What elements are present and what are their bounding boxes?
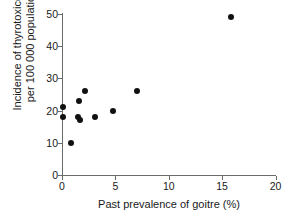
data-point <box>134 88 140 94</box>
y-axis-label: Incidence of thyrotoxicosis per 100 000 … <box>11 0 37 126</box>
x-axis-label: Past prevalence of goitre (%) <box>62 198 276 210</box>
y-tick-mark <box>58 46 62 47</box>
y-tick-label: 40 <box>46 41 58 52</box>
y-tick-label: 0 <box>52 170 58 181</box>
data-point <box>228 14 234 20</box>
data-point <box>68 140 74 146</box>
y-tick-label: 30 <box>46 73 58 84</box>
y-tick-mark <box>58 111 62 112</box>
x-tick-label: 15 <box>216 181 228 192</box>
y-axis-label-line-2: per 100 000 population <box>24 0 37 126</box>
data-point <box>110 108 116 114</box>
x-tick-label: 0 <box>59 181 65 192</box>
scatter-plot-figure: Past prevalence of goitre (%) Incidence … <box>0 0 297 218</box>
x-tick-label: 10 <box>163 181 175 192</box>
y-tick-mark <box>58 78 62 79</box>
x-tick-label: 20 <box>270 181 282 192</box>
y-axis-line <box>62 13 63 176</box>
y-tick-mark <box>58 14 62 15</box>
y-tick-mark <box>58 143 62 144</box>
data-point <box>82 88 88 94</box>
data-point <box>60 104 66 110</box>
y-tick-label: 20 <box>46 105 58 116</box>
y-tick-mark <box>58 175 62 176</box>
data-point <box>92 114 98 120</box>
y-axis-label-line-1: Incidence of thyrotoxicosis <box>11 0 24 126</box>
data-point <box>76 98 82 104</box>
y-tick-label: 50 <box>46 9 58 20</box>
data-point <box>60 114 66 120</box>
data-point <box>77 117 83 123</box>
y-tick-label: 10 <box>46 137 58 148</box>
x-tick-label: 5 <box>112 181 118 192</box>
plot-area <box>0 0 297 218</box>
